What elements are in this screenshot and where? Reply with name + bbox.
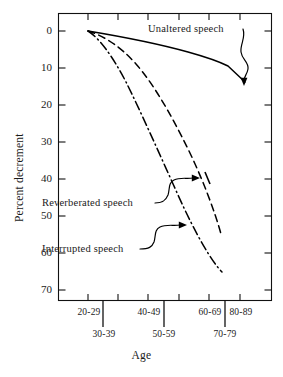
x-axis-ticks-bottom xyxy=(88,294,240,301)
xtick-label-30-39: 30-39 xyxy=(73,330,135,340)
ytick-label-70: 70 xyxy=(30,284,52,295)
xtick-label-80-89: 80-89 xyxy=(210,308,272,318)
xtick-label-20-29: 20-29 xyxy=(58,308,120,318)
xtick-label-50-59: 50-59 xyxy=(133,330,195,340)
chart-plot-area xyxy=(0,0,283,377)
x-axis-ticks-top xyxy=(88,14,240,21)
ytick-label-30: 30 xyxy=(30,136,52,147)
annotation-leader-reverberated xyxy=(155,172,210,203)
annotation-leader-unaltered xyxy=(241,29,248,86)
xtick-label-70-79: 70-79 xyxy=(194,330,256,340)
y-axis-ticks-right xyxy=(265,31,272,290)
annotation-label-unaltered-speech: Unaltered speech xyxy=(148,24,224,35)
annotation-label-reverberated-speech: Reverberated speech xyxy=(42,198,133,209)
ytick-label-10: 10 xyxy=(30,62,52,73)
axis-frame xyxy=(59,14,272,301)
annotation-label-interrupted-speech: Interrupted speech xyxy=(42,244,123,255)
ytick-label-40: 40 xyxy=(30,173,52,184)
xtick-label-40-49: 40-49 xyxy=(118,308,180,318)
ytick-label-0: 0 xyxy=(30,25,52,36)
x-axis-title: Age xyxy=(0,350,283,362)
ytick-label-20: 20 xyxy=(30,99,52,110)
annotation-leader-interrupted xyxy=(140,222,187,249)
y-axis-title: Percent decrement xyxy=(14,133,26,222)
ytick-label-50: 50 xyxy=(30,210,52,221)
chart-figure: 0 10 20 30 40 50 60 70 20-29 40-49 60-69… xyxy=(0,0,283,377)
